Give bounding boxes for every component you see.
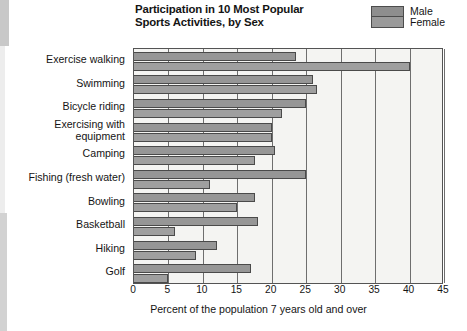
x-tick-label: 30	[334, 284, 345, 295]
x-axis-tick-labels: 051015202530354045	[133, 284, 443, 298]
bar	[134, 99, 306, 108]
bar-group	[134, 99, 442, 118]
bar	[134, 156, 255, 165]
category-label: Exercise walking	[0, 54, 125, 66]
x-tick-label: 5	[165, 284, 171, 295]
bar	[134, 62, 410, 71]
legend-label-female: Female	[410, 17, 445, 28]
x-tick-label: 10	[196, 284, 207, 295]
bar	[134, 251, 196, 260]
bar-chart: Participation in 10 Most Popular Sports …	[0, 0, 467, 331]
chart-title-line-2: Sports Activities, by Sex	[135, 16, 350, 29]
chart-title: Participation in 10 Most Popular Sports …	[135, 3, 350, 30]
legend-label-stack: Male Female	[410, 6, 445, 28]
bar	[134, 109, 282, 118]
bar-group	[134, 241, 442, 260]
bar	[134, 274, 168, 283]
bar	[134, 264, 251, 273]
legend-swatch-male	[372, 7, 403, 17]
category-label: Hiking	[0, 243, 125, 255]
chart-title-line-1: Participation in 10 Most Popular	[135, 3, 350, 16]
bar	[134, 170, 306, 179]
legend-swatch-female	[372, 17, 403, 27]
bar-group	[134, 170, 442, 189]
category-label: Camping	[0, 148, 125, 160]
chart-legend: Male Female	[371, 6, 445, 28]
category-axis-labels: Exercise walkingSwimmingBicycle ridingEx…	[2, 48, 129, 284]
x-tick-label: 15	[231, 284, 242, 295]
bar-group	[134, 123, 442, 142]
bar	[134, 52, 296, 61]
bar	[134, 241, 217, 250]
x-tick-label: 35	[368, 284, 379, 295]
bar	[134, 75, 313, 84]
x-tick-label: 45	[437, 284, 448, 295]
bar	[134, 85, 317, 94]
gridline-45	[444, 49, 445, 283]
bars-layer	[134, 49, 442, 283]
bar-group	[134, 75, 442, 94]
bar-group	[134, 146, 442, 165]
plot-area	[133, 48, 443, 284]
bar	[134, 203, 237, 212]
bar-group	[134, 217, 442, 236]
bar	[134, 123, 272, 132]
x-axis-title: Percent of the population 7 years old an…	[0, 303, 467, 315]
category-label: Swimming	[0, 78, 125, 90]
bar-group	[134, 264, 442, 283]
category-label: Bicycle riding	[0, 101, 125, 113]
category-label: Basketball	[0, 219, 125, 231]
bar	[134, 133, 272, 142]
bar	[134, 227, 175, 236]
legend-swatch-stack	[371, 6, 404, 28]
category-label: Bowling	[0, 196, 125, 208]
bar-group	[134, 52, 442, 71]
x-tick-label: 20	[265, 284, 276, 295]
category-label: Exercising with equipment	[0, 119, 125, 142]
x-tick-label: 0	[130, 284, 136, 295]
bar	[134, 217, 258, 226]
bar	[134, 180, 210, 189]
category-label: Golf	[0, 266, 125, 278]
category-label: Fishing (fresh water)	[0, 172, 125, 184]
x-tick-label: 25	[300, 284, 311, 295]
x-tick-label: 40	[403, 284, 414, 295]
bar	[134, 193, 255, 202]
bar-group	[134, 193, 442, 212]
bar	[134, 146, 275, 155]
